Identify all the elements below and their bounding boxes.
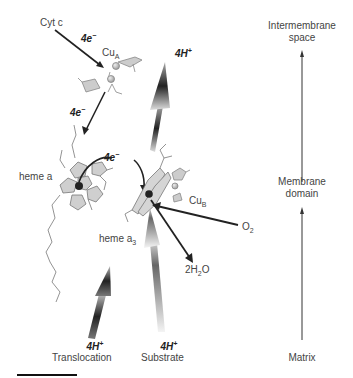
label-electron-1: 4e− (81, 32, 96, 45)
heme-a3 (125, 144, 172, 222)
proton-arrow-translocation (88, 266, 111, 339)
label-cu-a: CuA (102, 47, 119, 61)
label-cyt-c: Cyt c (40, 17, 63, 29)
electron-arrow-cytc (55, 30, 104, 68)
axis-label-intermembrane: Intermembranespace (265, 20, 339, 43)
cu-b-center (172, 168, 190, 202)
label-proton-top: 4H+ (175, 47, 192, 60)
label-proton-translocation: 4H+ (80, 340, 110, 353)
label-heme-a: heme a (19, 171, 52, 183)
label-substrate: Substrate (141, 352, 184, 364)
label-electron-2: 4e− (70, 106, 85, 119)
label-translocation: Translocation (52, 352, 112, 364)
axis-label-membrane-domain: Membranedomain (272, 176, 332, 199)
label-proton-substrate: 4H+ (154, 340, 184, 353)
label-cu-b: CuB (189, 195, 206, 209)
axis-label-matrix: Matrix (280, 352, 324, 364)
label-heme-a3: heme a3 (99, 233, 136, 247)
label-oxygen: O2 (242, 221, 254, 235)
cu-a-center (78, 57, 142, 94)
label-water: 2H2O (185, 264, 209, 278)
proton-arrow-top (150, 62, 170, 152)
proton-arrow-substrate (144, 208, 165, 332)
electron-arrow-cua-to-heme-a (82, 92, 105, 135)
heme-a (46, 125, 113, 302)
label-electron-3: 4e− (104, 151, 119, 164)
